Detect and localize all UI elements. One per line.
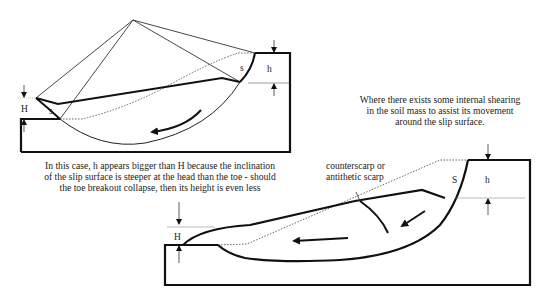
counterscarp-annotation: counterscarp or antithetic scarp bbox=[326, 161, 385, 183]
label-H-diagram-1: H bbox=[21, 104, 28, 114]
original-slope-dotted bbox=[60, 53, 255, 119]
movement-arrow bbox=[152, 110, 201, 132]
movement-arrow-body bbox=[294, 238, 348, 241]
movement-arrow-head bbox=[402, 211, 425, 226]
label-h-diagram-1: h bbox=[267, 64, 272, 74]
label-S-diagram-2: S bbox=[452, 175, 457, 185]
annotation-line: antithetic scarp bbox=[326, 172, 385, 183]
caption-line: around the slip surface. bbox=[340, 116, 540, 127]
caption-diagram-2: Where there exists some internal shearin… bbox=[340, 94, 540, 127]
caption-line: In this case, h appears bigger than H be… bbox=[20, 160, 300, 171]
caption-line: of the slip surface is steeper at the he… bbox=[20, 171, 300, 182]
caption-line: the toe breakout collapse, then its heig… bbox=[20, 182, 300, 193]
displaced-surface bbox=[183, 190, 445, 245]
counterscarp bbox=[360, 201, 388, 233]
label-s-head: s bbox=[240, 63, 244, 73]
diagram-canvas bbox=[0, 0, 551, 300]
caption-line: in the soil mass to assist its movement bbox=[340, 105, 540, 116]
annotation-line: counterscarp or bbox=[326, 161, 385, 172]
caption-line: Where there exists some internal shearin… bbox=[340, 94, 540, 105]
label-s-toe: s bbox=[49, 106, 53, 116]
slip-surface-arc bbox=[60, 82, 240, 144]
label-h-diagram-2: h bbox=[485, 175, 490, 185]
caption-diagram-1: In this case, h appears bigger than H be… bbox=[20, 160, 300, 193]
label-H-diagram-2: H bbox=[174, 232, 181, 242]
diagram-1-rotational-slip bbox=[18, 20, 290, 152]
